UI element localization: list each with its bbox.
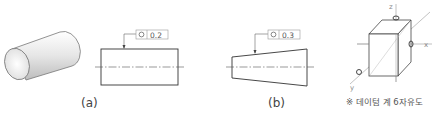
figure-a-label: (a) <box>81 96 98 110</box>
x-axis-label: x <box>424 41 428 49</box>
datum-cube-illustration: z x y <box>350 3 432 92</box>
figure-b-drawing <box>226 30 314 86</box>
datum-caption: ※ 데이텀 계 6자유도 <box>346 95 423 107</box>
y-axis-label: y <box>350 84 354 92</box>
figure-a-drawing <box>95 30 184 85</box>
cylinder-illustration <box>1 31 81 83</box>
z-axis-label: z <box>389 3 393 11</box>
tolerance-value-b: 0.3 <box>282 31 294 40</box>
tolerance-value-a: 0.2 <box>150 31 162 40</box>
figure-b-label: (b) <box>268 96 285 110</box>
